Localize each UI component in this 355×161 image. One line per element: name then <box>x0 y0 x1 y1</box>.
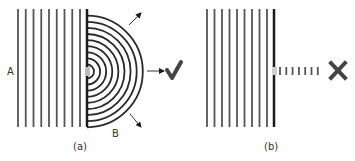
diffraction-diagram: A B (a) (b) <box>0 0 355 161</box>
plane-wavefronts-a <box>18 9 80 127</box>
label-a-incoming: A <box>7 66 14 77</box>
check-mark-icon <box>167 62 181 78</box>
cross-mark-icon <box>331 63 345 78</box>
circular-wavefront <box>87 16 143 128</box>
caption-b: (b) <box>264 141 278 152</box>
circular-wavefronts <box>87 16 143 128</box>
plane-wavefronts-b <box>207 9 267 127</box>
transmitted-dashes <box>280 67 318 75</box>
label-b-outgoing: B <box>112 128 119 139</box>
circular-wavefront <box>87 40 118 103</box>
slit-gap-b <box>272 67 277 75</box>
panel-b: (b) <box>207 9 345 152</box>
slit-gap-a <box>85 67 90 76</box>
caption-a: (a) <box>73 141 87 152</box>
arrow-down-right <box>130 114 141 127</box>
arrow-up-right <box>129 13 141 25</box>
panel-a: A B (a) <box>7 9 181 152</box>
